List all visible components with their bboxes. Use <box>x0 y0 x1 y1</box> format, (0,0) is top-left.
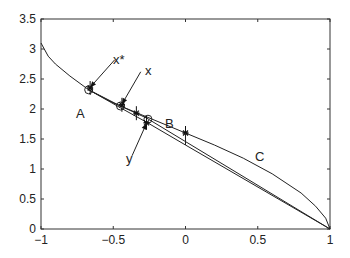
y-tick-label: 1.5 <box>19 132 36 146</box>
y-tick-label: 2 <box>29 102 36 116</box>
y-tick-label: 0.5 <box>19 192 36 206</box>
annotations <box>90 60 146 156</box>
x-tick-label: −1 <box>34 233 48 247</box>
label-xstar: x* <box>113 52 125 67</box>
label-c: C <box>255 149 264 164</box>
data-markers <box>85 81 189 145</box>
chart: −1−0.500.5100.511.522.533.5 A B C x* x y <box>0 0 350 258</box>
label-a: A <box>76 106 85 121</box>
plot-frame <box>41 19 330 229</box>
label-y: y <box>126 151 133 166</box>
x-tick-label: 1 <box>327 233 334 247</box>
x-tick-label: −0.5 <box>101 233 125 247</box>
y-tick-label: 3 <box>29 42 36 56</box>
y-tick-label: 2.5 <box>19 72 36 86</box>
y-tick-label: 3.5 <box>19 12 36 26</box>
axis-ticks <box>41 19 330 229</box>
series-line-1 <box>89 90 330 229</box>
y-tick-label: 1 <box>29 162 36 176</box>
y-tick-label: 0 <box>29 222 36 236</box>
label-x: x <box>145 63 152 78</box>
x-tick-label: 0.5 <box>249 233 266 247</box>
label-b: B <box>165 116 174 131</box>
x-tick-label: 0 <box>182 233 189 247</box>
